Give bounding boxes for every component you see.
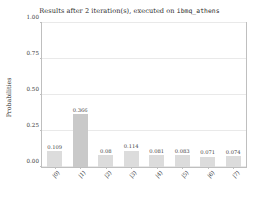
bar: [226, 156, 241, 167]
bar: [73, 114, 88, 167]
x-axis-label-slot: |0⟩: [41, 170, 67, 200]
bar-value-label: 0.366: [73, 107, 88, 113]
x-axis-tickmark: [157, 167, 158, 169]
bar-column: 0.109: [42, 23, 68, 167]
y-axis-tick-label: 1.00: [27, 14, 42, 20]
plot-area: 0.000.250.500.751.00 0.1090.3660.080.114…: [41, 22, 247, 168]
plot-inner: 0.000.250.500.751.00 0.1090.3660.080.114…: [42, 23, 246, 167]
bar-value-label: 0.08: [100, 148, 112, 154]
bar: [47, 151, 62, 167]
chart-title-text: Results after 2 iteration(s), executed o…: [39, 7, 176, 15]
bar-column: 0.08: [93, 23, 119, 167]
bar-column: 0.074: [221, 23, 247, 167]
bar-column: 0.366: [68, 23, 94, 167]
bar: [149, 155, 164, 167]
bar: [175, 155, 190, 167]
bar-column: 0.114: [119, 23, 145, 167]
bar-value-label: 0.071: [200, 149, 215, 155]
y-axis-tick-label: 0.00: [27, 158, 42, 164]
x-axis-tickmark: [182, 167, 183, 169]
x-axis-tickmark: [233, 167, 234, 169]
bar: [124, 151, 139, 167]
bar-value-label: 0.114: [124, 143, 139, 149]
x-axis-labels: |0⟩|1⟩|2⟩|3⟩|4⟩|5⟩|6⟩|7⟩: [41, 170, 247, 200]
bar-column: 0.071: [195, 23, 221, 167]
bar-column: 0.081: [144, 23, 170, 167]
bar-value-label: 0.109: [47, 144, 62, 150]
y-axis-tick-label: 0.75: [27, 50, 42, 56]
x-axis-tick-label: |7⟩: [231, 169, 256, 194]
x-axis-tickmark: [208, 167, 209, 169]
y-axis-title-text: Probabilities: [6, 78, 13, 118]
bar-series: 0.1090.3660.080.1140.0810.0830.0710.074: [42, 23, 246, 167]
bar: [98, 155, 113, 167]
chart-title-backend: ibmq_athens: [177, 7, 220, 15]
bar-value-label: 0.083: [175, 148, 190, 154]
bar-value-label: 0.081: [149, 148, 164, 154]
chart-figure: Results after 2 iteration(s), executed o…: [0, 0, 259, 207]
bar-value-label: 0.074: [226, 149, 241, 155]
bar-column: 0.083: [170, 23, 196, 167]
y-axis-tick-label: 0.50: [27, 86, 42, 92]
bar: [200, 157, 215, 167]
y-axis-tick-label: 0.25: [27, 122, 42, 128]
y-axis-title: Probabilities: [2, 0, 16, 207]
x-axis-tickmark: [106, 167, 107, 169]
